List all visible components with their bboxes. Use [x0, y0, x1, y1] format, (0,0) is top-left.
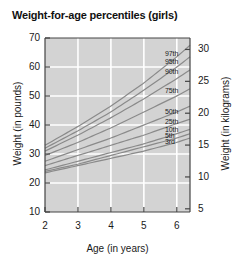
series-label-3rd: 3rd [165, 138, 175, 145]
chart-figure: Weight-for-age percentiles (girls) 10203… [0, 0, 242, 269]
series-label-75th: 75th [165, 87, 178, 94]
x-tick-label: 2 [37, 220, 53, 231]
x-tick-label: 6 [169, 220, 185, 231]
y-axis-title-left: Weight (in pounds) [12, 74, 23, 174]
series-label-50th: 50th [165, 108, 178, 115]
series-label-90th: 90th [165, 68, 178, 75]
y-tick-label-left: 70 [14, 32, 40, 43]
y-tick-label-left: 60 [14, 61, 40, 72]
y-tick-label-right: 30 [198, 43, 224, 54]
series-label-97th: 97th [165, 50, 178, 57]
y-axis-title-right: Weight (in kilograms) [220, 74, 231, 174]
y-tick-label-left: 10 [14, 206, 40, 217]
x-tick-label: 4 [103, 220, 119, 231]
y-tick-label-left: 20 [14, 177, 40, 188]
x-tick-label: 3 [70, 220, 86, 231]
series-label-95th: 95th [165, 58, 178, 65]
x-axis-title: Age (in years) [44, 243, 191, 254]
series-label-25th: 25th [165, 118, 178, 125]
x-tick-label: 5 [136, 220, 152, 231]
y-tick-label-right: 5 [198, 203, 224, 214]
